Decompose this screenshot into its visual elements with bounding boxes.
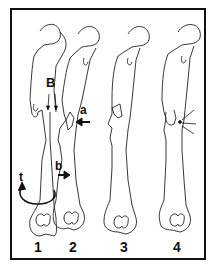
label-B: B	[46, 76, 55, 89]
panel-number-2: 2	[69, 240, 77, 254]
figure-border	[11, 9, 205, 259]
arrows-B-fragment	[47, 94, 58, 110]
panel-number-3: 3	[120, 240, 128, 254]
femur-fracture-diagram	[0, 0, 218, 273]
label-a: a	[80, 104, 87, 116]
femur-panel-3	[104, 27, 149, 235]
arrow-a	[76, 118, 90, 126]
femur-panel-2	[53, 27, 99, 231]
panel-number-4: 4	[173, 240, 181, 254]
arrows-panel-4	[182, 110, 196, 134]
panel-number-1: 1	[34, 240, 42, 254]
torsion-arrow	[19, 183, 55, 204]
label-t: t	[19, 171, 23, 183]
label-b: b	[55, 160, 62, 172]
femur-panel-4	[159, 25, 200, 233]
